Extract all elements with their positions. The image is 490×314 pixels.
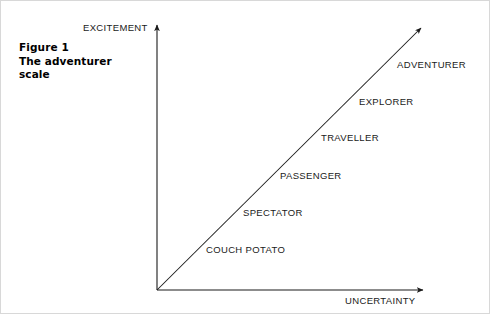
figure-caption-line-3: scale: [19, 68, 112, 82]
scale-label-adventurer: ADVENTURER: [397, 59, 466, 70]
figure-container: Figure 1 The adventurer scale EXCITEMENT…: [0, 0, 490, 314]
scale-label-spectator: SPECTATOR: [243, 207, 303, 218]
scale-label-couch-potato: COUCH POTATO: [206, 244, 285, 255]
scale-label-passenger: PASSENGER: [280, 170, 342, 181]
adventurer-scale-diagonal: [157, 28, 421, 290]
figure-caption: Figure 1 The adventurer scale: [19, 41, 112, 82]
figure-caption-line-1: Figure 1: [19, 41, 112, 55]
y-axis-label: EXCITEMENT: [83, 22, 148, 33]
scale-label-traveller: TRAVELLER: [321, 132, 379, 143]
x-axis-label: UNCERTAINTY: [345, 295, 416, 306]
scale-label-explorer: EXPLORER: [359, 96, 414, 107]
figure-caption-line-2: The adventurer: [19, 55, 112, 69]
